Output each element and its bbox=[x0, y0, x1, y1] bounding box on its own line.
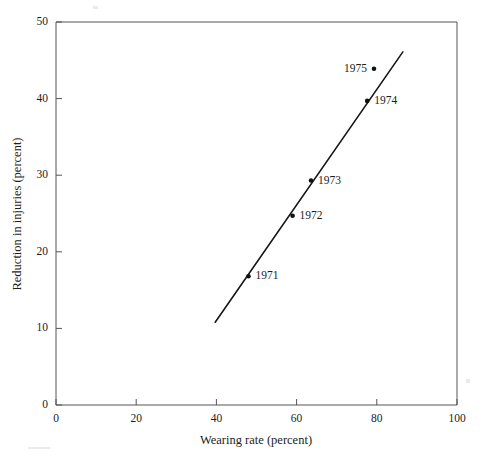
data-point-marker bbox=[309, 178, 314, 183]
data-point-marker bbox=[290, 213, 295, 218]
x-tick-label: 80 bbox=[371, 413, 383, 425]
data-point-label: 1974 bbox=[374, 95, 397, 107]
data-point-marker bbox=[372, 66, 377, 71]
x-axis-ticks bbox=[56, 399, 457, 405]
x-tick-label: 20 bbox=[130, 413, 142, 425]
y-tick-label: 20 bbox=[37, 246, 49, 258]
y-tick-label: 30 bbox=[37, 169, 49, 181]
plot-canvas bbox=[0, 0, 483, 458]
y-tick-label: 10 bbox=[37, 323, 49, 335]
data-point-label: 1971 bbox=[255, 271, 278, 283]
x-tick-label: 100 bbox=[448, 413, 465, 425]
y-tick-label: 0 bbox=[42, 399, 48, 411]
chart-figure: 01020304050020406080100 1971197219731974… bbox=[0, 0, 483, 458]
y-axis-title: Reduction in injuries (percent) bbox=[11, 137, 24, 290]
data-point-marker bbox=[365, 99, 370, 104]
x-tick-label: 60 bbox=[291, 413, 303, 425]
plot-frame bbox=[56, 22, 457, 405]
x-tick-label: 40 bbox=[211, 413, 223, 425]
data-point-marker bbox=[246, 274, 251, 279]
trend-line bbox=[215, 52, 403, 322]
y-tick-label: 40 bbox=[37, 93, 49, 105]
data-point-label: 1973 bbox=[318, 175, 341, 187]
data-point-label: 1975 bbox=[344, 63, 367, 75]
y-axis-ticks bbox=[56, 22, 62, 405]
y-tick-label: 50 bbox=[37, 16, 49, 28]
data-point-markers bbox=[246, 66, 376, 278]
data-point-label: 1972 bbox=[300, 210, 323, 222]
x-tick-label: 0 bbox=[53, 413, 59, 425]
x-axis-title: Wearing rate (percent) bbox=[200, 434, 312, 447]
